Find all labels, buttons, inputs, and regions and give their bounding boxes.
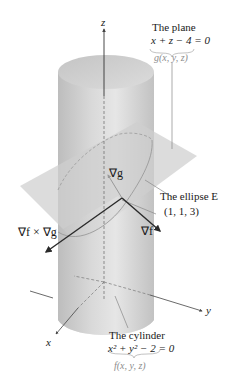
cylinder-equation: x² + y² − 2 = 0 [108,343,174,354]
point-label: (1, 1, 3) [164,206,199,217]
axis-segment [30,291,53,298]
plane-function: g(x, y, z) [154,53,188,63]
grad-g-label: ∇g [109,167,123,179]
y-axis-label: y [206,305,211,316]
plane-title: The plane [152,22,196,33]
plane-equation: x + z − 4 = 0 [151,35,210,46]
cross-product-label: ∇f × ∇g [18,226,57,238]
cylinder-function: f(x, y, z) [114,361,146,371]
x-axis-label: x [46,337,51,348]
cylinder-title: The cylinder [109,330,165,341]
z-axis-label: z [101,17,105,28]
ellipse-label: The ellipse E [160,191,218,202]
grad-f-label: ∇f [141,225,153,237]
